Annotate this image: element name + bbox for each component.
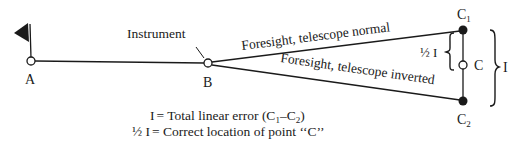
line-a-b xyxy=(35,61,204,63)
label-c: C xyxy=(474,58,483,73)
label-full-i: I xyxy=(503,60,508,75)
label-foresight-normal: Foresight, telescope normal xyxy=(240,19,391,53)
surveying-diagram: A B Instrument C1 C C2 ½ I I Foresight, … xyxy=(0,0,519,145)
flag-icon xyxy=(14,23,29,42)
point-a xyxy=(27,57,35,65)
label-foresight-inverted: Foresight, telescope inverted xyxy=(280,50,436,87)
instrument-leader xyxy=(196,47,204,58)
flag-pole xyxy=(30,24,31,58)
point-b xyxy=(204,59,212,67)
legend-line-2: ½ I= Correct location of point ‘‘C’’ xyxy=(132,124,324,139)
half-brace xyxy=(446,33,454,70)
label-instrument: Instrument xyxy=(127,26,186,41)
label-b: B xyxy=(203,75,212,90)
point-c2 xyxy=(459,97,468,106)
point-c xyxy=(459,61,467,69)
label-a: A xyxy=(25,72,36,87)
label-half-i: ½ I xyxy=(420,45,437,60)
full-brace xyxy=(490,30,499,106)
label-c1: C1 xyxy=(457,7,471,24)
point-c1 xyxy=(459,26,468,35)
legend-line-1: I= Total linear error (C1–C2) xyxy=(150,108,305,125)
label-c2: C2 xyxy=(457,112,471,129)
